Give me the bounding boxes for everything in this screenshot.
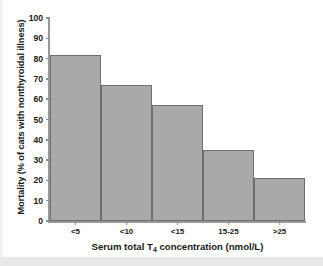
- y-axis-tick: 0: [38, 216, 50, 226]
- x-axis-tick-mark: [126, 221, 128, 225]
- y-axis-tick-label: 30: [33, 155, 43, 165]
- bar: [101, 85, 152, 221]
- bar: [254, 178, 305, 221]
- y-axis-tick-label: 70: [33, 74, 43, 84]
- y-axis-tick-mark: [46, 38, 50, 40]
- y-axis-tick-label: 60: [33, 94, 43, 104]
- y-axis-tick: 50: [33, 115, 50, 125]
- y-axis-title: Mortality (% of cats with nonthyroidal i…: [16, 2, 26, 232]
- y-axis-tick-label: 90: [33, 33, 43, 43]
- x-axis-tick-mark: [279, 221, 281, 225]
- plot-area: 0102030405060708090100 <5<10<1515-25>25: [50, 18, 305, 221]
- x-axis-title-after: concentration (nmol/L): [157, 241, 264, 252]
- bar: [152, 105, 203, 221]
- y-axis-tick-label: 0: [38, 216, 43, 226]
- bar: [203, 150, 254, 221]
- y-axis-tick-label: 80: [33, 54, 43, 64]
- y-axis-tick-label: 20: [33, 175, 43, 185]
- y-axis-tick-label: 100: [29, 13, 43, 23]
- x-axis-tick-label: >25: [273, 227, 287, 236]
- y-axis-tick: 30: [33, 155, 50, 165]
- x-axis-tick-label: 15-25: [218, 227, 238, 236]
- bar: [50, 55, 101, 221]
- y-axis-tick: 80: [33, 54, 50, 64]
- y-axis-tick: 20: [33, 175, 50, 185]
- x-axis-tick-label: <10: [120, 227, 134, 236]
- y-axis-tick: 70: [33, 74, 50, 84]
- y-axis-tick-label: 40: [33, 135, 43, 145]
- y-axis-tick-mark: [46, 17, 50, 19]
- x-axis-title: Serum total T4 concentration (nmol/L): [40, 241, 315, 252]
- x-axis-tick-mark: [228, 221, 230, 225]
- y-axis-tick: 40: [33, 135, 50, 145]
- figure-bottom-edge-strip: [0, 257, 323, 266]
- x-axis-tick-mark: [177, 221, 179, 225]
- y-axis-tick: 10: [33, 196, 50, 206]
- y-axis-tick: 100: [29, 13, 50, 23]
- x-axis-title-before: Serum total T: [92, 241, 153, 252]
- figure-left-edge-strip: [0, 0, 3, 266]
- y-axis-tick-label: 50: [33, 115, 43, 125]
- y-axis-tick: 90: [33, 33, 50, 43]
- y-axis-tick-label: 10: [33, 196, 43, 206]
- chart-figure: Mortality (% of cats with nonthyroidal i…: [0, 0, 323, 266]
- x-axis-tick-label: <15: [171, 227, 185, 236]
- x-axis-tick-label: <5: [71, 227, 80, 236]
- y-axis-tick: 60: [33, 94, 50, 104]
- x-axis-tick-mark: [75, 221, 77, 225]
- x-axis-title-subscript: 4: [153, 246, 157, 253]
